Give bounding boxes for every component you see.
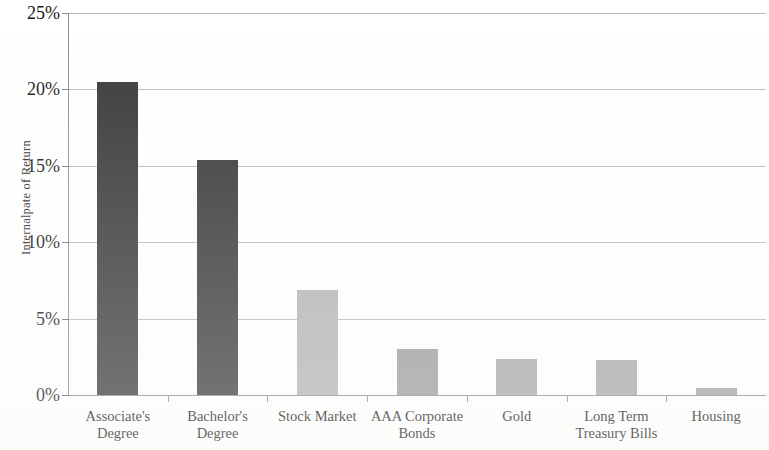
x-axis-category-label-line1: Gold — [502, 408, 531, 424]
x-axis-category-label-line1: Housing — [692, 408, 741, 424]
x-axis-category-label: Gold — [461, 408, 573, 425]
y-axis-tick-mark — [62, 242, 69, 243]
x-axis-category-label-line1: AAA Corporate — [371, 408, 463, 424]
x-axis-tick-mark — [168, 395, 169, 402]
x-axis-category-label-line1: Associate's — [86, 408, 151, 424]
y-axis-tick-mark — [62, 166, 69, 167]
y-axis-tick-mark — [62, 395, 69, 396]
x-axis-category-label-line1: Bachelor's — [187, 408, 248, 424]
x-axis-category-label-line1: Long Term — [584, 408, 648, 424]
x-axis-category-label-line2: Bonds — [361, 425, 473, 442]
x-axis-category-label-line2: Degree — [162, 425, 274, 442]
x-axis-category-label: Housing — [660, 408, 769, 425]
x-axis-category-label-line2: Degree — [62, 425, 174, 442]
x-axis-category-label: Associate'sDegree — [62, 408, 174, 442]
y-axis-tick-mark — [62, 319, 69, 320]
y-axis-tick-mark — [62, 13, 69, 14]
x-axis-tick-mark — [467, 395, 468, 402]
x-axis-category-label: Long TermTreasury Bills — [561, 408, 673, 442]
x-axis-category-label: AAA CorporateBonds — [361, 408, 473, 442]
bar-chart: Internalpate of Return 25%20%15%10%5%0% … — [0, 0, 769, 450]
y-axis-tick-mark — [62, 89, 69, 90]
x-axis-tick-mark — [367, 395, 368, 402]
x-axis-category-labels: Associate'sDegreeBachelor'sDegreeStock M… — [0, 408, 769, 450]
x-axis-category-label-line1: Stock Market — [278, 408, 357, 424]
x-axis-tick-mark — [666, 395, 667, 402]
x-axis-category-label: Bachelor'sDegree — [162, 408, 274, 442]
x-axis-tick-mark — [267, 395, 268, 402]
x-axis-category-label-line2: Treasury Bills — [561, 425, 673, 442]
x-axis-tick-marks — [0, 0, 769, 450]
x-axis-category-label: Stock Market — [261, 408, 373, 425]
x-axis-tick-mark — [567, 395, 568, 402]
